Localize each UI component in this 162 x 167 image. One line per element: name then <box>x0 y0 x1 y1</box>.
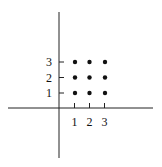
point-1-3 <box>73 60 77 64</box>
point-3-3 <box>103 60 107 64</box>
y-label-2: 2 <box>46 71 52 85</box>
lattice-points <box>73 60 107 95</box>
lattice-point-diagram: 1 2 3 1 2 3 <box>0 0 162 167</box>
point-1-1 <box>73 91 77 95</box>
x-label-1: 1 <box>72 115 78 129</box>
x-label-2: 2 <box>87 115 93 129</box>
y-label-1: 1 <box>46 86 52 100</box>
point-3-1 <box>103 91 107 95</box>
point-2-2 <box>87 75 91 79</box>
point-2-3 <box>87 60 91 64</box>
x-label-3: 3 <box>102 115 108 129</box>
point-1-2 <box>73 75 77 79</box>
y-label-3: 3 <box>46 55 52 69</box>
point-3-2 <box>103 75 107 79</box>
point-2-1 <box>87 91 91 95</box>
